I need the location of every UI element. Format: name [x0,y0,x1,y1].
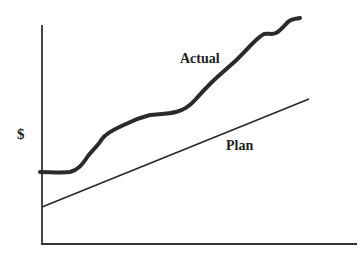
actual-line [40,18,300,172]
actual-label: Actual [180,51,220,66]
plan-label: Plan [226,138,253,153]
y-axis-label: $ [17,126,25,142]
plan-line [42,99,309,207]
chart: $ Actual Plan [0,0,359,262]
